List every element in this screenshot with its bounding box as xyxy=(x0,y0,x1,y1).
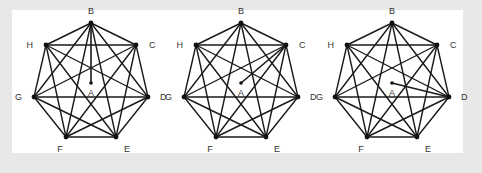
vertex-label-h: H xyxy=(177,40,184,50)
vertex-a xyxy=(390,81,394,85)
vertex-c xyxy=(435,43,440,48)
vertex-e xyxy=(415,135,420,140)
vertex-label-c: C xyxy=(299,40,306,50)
complete-graph-figure: BCDEFGHABCDEFGHABCDEFGHA xyxy=(0,0,482,173)
vertex-b xyxy=(89,21,94,26)
vertex-a xyxy=(89,81,93,85)
vertex-label-e: E xyxy=(425,144,431,154)
white-panel xyxy=(12,10,463,153)
vertex-label-f: F xyxy=(57,144,63,154)
vertex-e xyxy=(264,135,269,140)
vertex-b xyxy=(390,21,395,26)
vertex-label-h: H xyxy=(27,40,34,50)
vertex-label-d: D xyxy=(461,92,468,102)
vertex-label-b: B xyxy=(88,6,94,16)
vertex-label-e: E xyxy=(124,144,130,154)
vertex-c xyxy=(134,43,139,48)
vertex-f xyxy=(214,135,219,140)
vertex-label-b: B xyxy=(389,6,395,16)
vertex-label-g: G xyxy=(15,92,22,102)
vertex-label-f: F xyxy=(207,144,213,154)
vertex-label-a: A xyxy=(238,88,244,98)
vertex-f xyxy=(64,135,69,140)
vertex-c xyxy=(284,43,289,48)
vertex-label-g: G xyxy=(316,92,323,102)
vertex-e xyxy=(114,135,119,140)
vertex-h xyxy=(194,43,199,48)
vertex-label-a: A xyxy=(88,88,94,98)
vertex-f xyxy=(365,135,370,140)
vertex-d xyxy=(146,95,151,100)
vertex-label-h: H xyxy=(328,40,335,50)
vertex-label-g: G xyxy=(165,92,172,102)
vertex-h xyxy=(44,43,49,48)
vertex-label-a: A xyxy=(389,88,395,98)
vertex-label-e: E xyxy=(274,144,280,154)
vertex-d xyxy=(296,95,301,100)
vertex-g xyxy=(333,95,338,100)
vertex-a xyxy=(239,81,243,85)
vertex-b xyxy=(239,21,244,26)
vertex-g xyxy=(182,95,187,100)
vertex-label-c: C xyxy=(149,40,156,50)
vertex-label-c: C xyxy=(450,40,457,50)
vertex-g xyxy=(32,95,37,100)
vertex-h xyxy=(345,43,350,48)
vertex-d xyxy=(447,95,452,100)
vertex-label-f: F xyxy=(358,144,364,154)
vertex-label-b: B xyxy=(238,6,244,16)
